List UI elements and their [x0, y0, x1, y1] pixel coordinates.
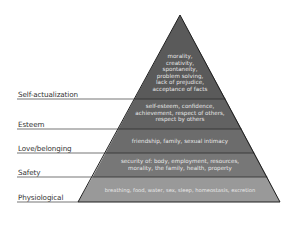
band-text-esteem: self-esteem, confidence, achievement, re… [135, 103, 224, 123]
band-text-safety: security of: body, employment, resources… [121, 158, 239, 171]
band-text-self-actualization: morality, creativity, spontaneity, probl… [153, 53, 208, 93]
level-label-safety: Safety [18, 168, 40, 177]
level-label-physiological: Physiological [18, 193, 63, 202]
band-text-physiological: breathing, food, water, sex, sleep, home… [105, 187, 255, 194]
level-label-self-actualization: Self-actualization [18, 90, 78, 99]
level-label-love-belonging: Love/belonging [18, 144, 72, 153]
band-text-love-belonging: friendship, family, sexual intimacy [132, 138, 228, 145]
level-label-esteem: Esteem [18, 120, 44, 129]
